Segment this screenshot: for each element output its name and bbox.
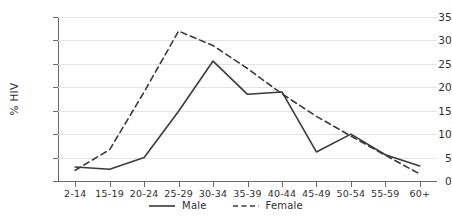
x-tick-mark	[351, 182, 352, 187]
x-tick-label: 60+	[409, 188, 430, 199]
x-tick-label: 25-29	[164, 188, 193, 199]
hiv-prevalence-by-age-line-chart: % HIV 05101520253035 2-1415-1920-2425-29…	[0, 0, 452, 221]
x-tick-label: 50-54	[337, 188, 366, 199]
x-tick-mark	[75, 182, 76, 187]
x-tick-label: 45-49	[302, 188, 331, 199]
x-tick-label: 40-44	[268, 188, 297, 199]
legend-entry-female[interactable]: Female	[233, 200, 303, 211]
legend-entry-male[interactable]: Male	[149, 200, 207, 211]
x-tick-mark	[316, 182, 317, 187]
y-axis-label: % HIV	[8, 83, 20, 116]
chart-legend: Male Female	[0, 200, 452, 211]
x-tick-mark	[110, 182, 111, 187]
x-tick-mark	[420, 182, 421, 187]
x-tick-mark	[282, 182, 283, 187]
x-tick-mark	[385, 182, 386, 187]
plot-area	[58, 17, 437, 181]
x-tick-label: 20-24	[130, 188, 159, 199]
x-tick-label: 15-19	[95, 188, 124, 199]
x-tick-mark	[144, 182, 145, 187]
legend-label-female: Female	[266, 200, 303, 211]
x-tick-label: 2-14	[64, 188, 86, 199]
series-lines	[58, 17, 437, 181]
y-tick-mark	[53, 181, 58, 182]
dashed-line-swatch	[233, 201, 259, 211]
x-tick-mark	[213, 182, 214, 187]
x-tick-mark	[179, 182, 180, 187]
legend-label-male: Male	[182, 200, 207, 211]
solid-line-swatch	[149, 201, 175, 211]
x-tick-label: 55-59	[371, 188, 400, 199]
series-line-female	[75, 31, 420, 174]
series-line-male	[75, 61, 420, 169]
x-tick-mark	[248, 182, 249, 187]
x-tick-label: 30-34	[199, 188, 228, 199]
x-tick-label: 35-39	[233, 188, 262, 199]
